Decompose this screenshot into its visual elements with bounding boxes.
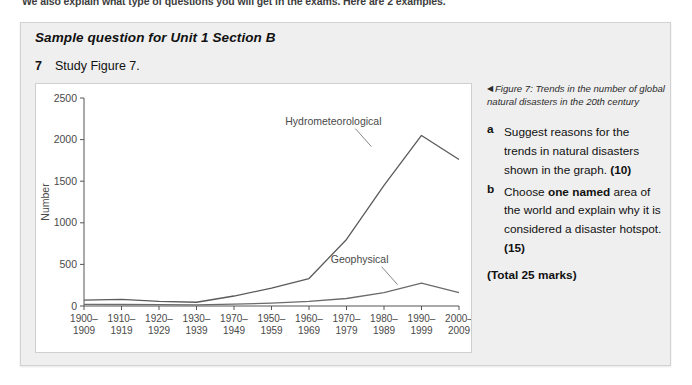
panel-title: Sample question for Unit 1 Section B xyxy=(35,30,276,45)
question-text: Study Figure 7. xyxy=(55,59,140,73)
sample-question-panel: Sample question for Unit 1 Section B 7 S… xyxy=(20,22,671,366)
x-tick-label: 1950–1959 xyxy=(258,313,286,336)
x-tick-label: 1980–1989 xyxy=(370,313,398,336)
x-tick-label: 1960–1969 xyxy=(295,313,323,336)
line-chart-svg: 05001000150020002500Number1900–19091910–… xyxy=(36,84,471,352)
series-label-hydrometeorological: Hydrometeorological xyxy=(285,115,381,127)
x-tick-label: 1990–1999 xyxy=(408,313,436,336)
y-tick-label: 1000 xyxy=(54,216,78,228)
y-tick-label: 1500 xyxy=(54,175,78,187)
x-tick-label: 1970–1949 xyxy=(220,313,248,336)
sub-question-list: aSuggest reasons for the trends in natur… xyxy=(487,122,665,256)
x-tick-label: 1920–1929 xyxy=(145,313,173,336)
x-tick-label: 2000–2009 xyxy=(445,313,471,336)
sub-question-a: aSuggest reasons for the trends in natur… xyxy=(487,122,665,178)
sub-question-body: Suggest reasons for the trends in natura… xyxy=(504,125,639,177)
sub-question-letter: a xyxy=(487,122,494,136)
sub-question-body: Choose one named area of the world and e… xyxy=(504,185,661,255)
series-leader-line xyxy=(355,129,371,147)
total-marks: (Total 25 marks) xyxy=(487,268,665,282)
figure-7-chart: 05001000150020002500Number1900–19091910–… xyxy=(35,83,472,353)
y-tick-label: 2000 xyxy=(54,133,78,145)
y-tick-label: 2500 xyxy=(54,92,78,104)
figure-caption: ◀Figure 7: Trends in the number of globa… xyxy=(487,83,665,108)
series-label-geophysical: Geophysical xyxy=(331,253,389,265)
x-tick-label: 1900–1909 xyxy=(70,313,98,336)
question-number: 7 xyxy=(35,59,42,73)
y-axis-title: Number xyxy=(39,183,51,221)
x-tick-label: 1930–1939 xyxy=(183,313,211,336)
x-tick-label: 1970–1979 xyxy=(333,313,361,336)
series-line-geophysical xyxy=(84,283,459,305)
figure-sidebar: ◀Figure 7: Trends in the number of globa… xyxy=(487,83,665,282)
series-line-hydrometeorological xyxy=(84,135,459,302)
y-tick-label: 500 xyxy=(59,258,77,270)
sub-question-letter: b xyxy=(487,182,494,196)
intro-sentence: We also explain what type of questions y… xyxy=(22,0,662,7)
y-tick-label: 0 xyxy=(71,300,77,312)
sub-question-b: bChoose one named area of the world and … xyxy=(487,182,665,257)
series-leader-line xyxy=(382,267,398,285)
figure-caption-text: Figure 7: Trends in the number of global… xyxy=(487,83,665,107)
x-tick-label: 1910–1919 xyxy=(108,313,136,336)
caption-arrow-icon: ◀ xyxy=(487,84,493,93)
